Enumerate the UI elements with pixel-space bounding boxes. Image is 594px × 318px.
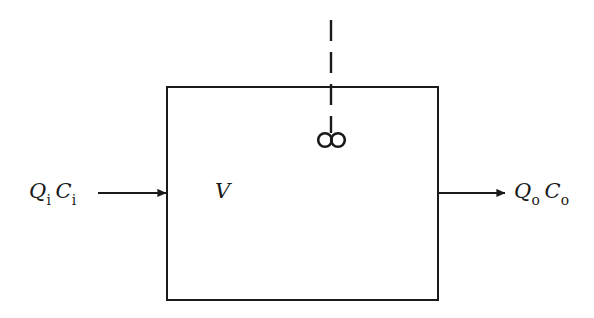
outlet-flow-rate-symbol: Q [514,179,531,203]
outlet-flow-rate-subscript: o [531,192,540,208]
outlet-concentration-symbol: C [544,179,560,203]
impeller-left-circle [318,133,332,147]
reactor-volume-label: V [215,181,230,202]
inlet-flow-rate-subscript: i [46,192,52,208]
outlet-flow-label: QoCo [514,181,570,206]
impeller-right-circle [331,133,345,147]
reactor-vessel [167,87,438,300]
inlet-flow-rate-symbol: Q [29,179,46,203]
diagram-vector-layer [0,0,594,318]
outlet-concentration-subscript: o [561,192,570,208]
figure-canvas: QiCi V QoCo [0,0,594,318]
inlet-concentration-symbol: C [56,179,72,203]
inlet-concentration-subscript: i [72,192,78,208]
inlet-flow-label: QiCi [29,181,77,206]
